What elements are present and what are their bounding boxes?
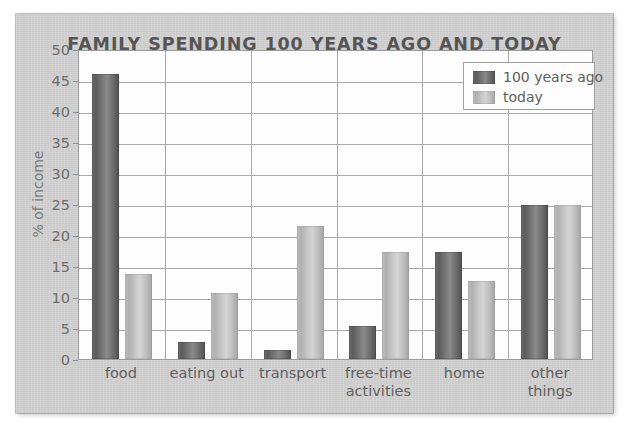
y-axis-tick-label: 15: [24, 259, 70, 275]
bar-eating-out-100-years-ago: [178, 342, 205, 359]
bar-home-100-years-ago: [435, 252, 462, 359]
bar-transport-100-years-ago: [264, 350, 291, 359]
y-axis-tick-label: 25: [24, 197, 70, 213]
y-axis-tick-mark: [73, 112, 78, 113]
gridline-horizontal: [79, 206, 592, 207]
legend-label-today: today: [503, 89, 543, 105]
x-axis-tick-label: home: [421, 364, 507, 382]
y-axis-tick-label: 45: [24, 73, 70, 89]
bar-food-today: [125, 274, 152, 359]
bar-other-things-100-years-ago: [521, 205, 548, 359]
y-axis-tick-label: 10: [24, 290, 70, 306]
gridline-horizontal: [79, 299, 592, 300]
gridline-horizontal: [79, 330, 592, 331]
y-axis-tick-mark: [73, 267, 78, 268]
x-axis-tick-label: eating out: [164, 364, 250, 382]
gridline-horizontal: [79, 144, 592, 145]
y-axis-tick-label: 50: [24, 42, 70, 58]
y-axis-tick-labels: 50454035302520151050: [24, 50, 70, 360]
gridline-vertical: [165, 51, 166, 359]
chart-title: FAMILY SPENDING 100 YEARS AGO AND TODAY: [16, 34, 613, 54]
y-axis-tick-label: 35: [24, 135, 70, 151]
bar-transport-today: [297, 226, 324, 359]
y-axis-tick-mark: [73, 143, 78, 144]
gridline-vertical: [251, 51, 252, 359]
chart-legend: 100 years ago today: [463, 62, 595, 110]
legend-swatch-old-icon: [473, 71, 495, 84]
bar-eating-out-today: [211, 293, 238, 359]
x-axis-tick-label: free-time activities: [336, 364, 422, 400]
chart-screenshot: FAMILY SPENDING 100 YEARS AGO AND TODAY …: [0, 0, 631, 430]
y-axis-tick-label: 40: [24, 104, 70, 120]
legend-item-old: 100 years ago: [473, 67, 594, 87]
y-axis-tick-label: 5: [24, 321, 70, 337]
y-axis-tick-mark: [73, 174, 78, 175]
bar-food-100-years-ago: [92, 74, 119, 359]
y-axis-tick-mark: [73, 360, 78, 361]
y-axis-tick-mark: [73, 298, 78, 299]
gridline-horizontal: [79, 237, 592, 238]
bar-free-time-activities-100-years-ago: [349, 326, 376, 359]
legend-item-today: today: [473, 87, 594, 107]
y-axis-tick-label: 20: [24, 228, 70, 244]
y-axis-tick-label: 0: [24, 352, 70, 368]
x-axis-tick-label: other things: [507, 364, 593, 400]
y-axis-tick-label: 30: [24, 166, 70, 182]
gridline-vertical: [337, 51, 338, 359]
gridline-horizontal: [79, 113, 592, 114]
y-axis-tick-mark: [73, 329, 78, 330]
bar-free-time-activities-today: [382, 252, 409, 359]
gridline-horizontal: [79, 268, 592, 269]
legend-swatch-today-icon: [473, 91, 495, 104]
legend-label-old: 100 years ago: [503, 69, 603, 85]
x-axis-tick-labels: foodeating outtransportfree-time activit…: [78, 364, 593, 410]
x-axis-tick-label: transport: [250, 364, 336, 382]
gridline-vertical: [422, 51, 423, 359]
y-axis-tick-mark: [73, 236, 78, 237]
x-axis-tick-label: food: [78, 364, 164, 382]
bar-home-today: [468, 281, 495, 359]
chart-panel: FAMILY SPENDING 100 YEARS AGO AND TODAY …: [16, 14, 613, 413]
gridline-horizontal: [79, 175, 592, 176]
bar-other-things-today: [554, 205, 581, 359]
y-axis-tick-mark: [73, 205, 78, 206]
y-axis-tick-mark: [73, 81, 78, 82]
